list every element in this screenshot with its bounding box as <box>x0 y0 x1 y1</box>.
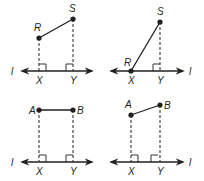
point-b <box>157 102 162 107</box>
label-r: R <box>34 22 41 33</box>
label-y: Y <box>157 166 165 177</box>
label-x: X <box>127 75 135 86</box>
label-l: l <box>11 157 14 168</box>
label-r: R <box>124 57 131 68</box>
right-angle-mark-y <box>151 155 158 162</box>
right-angle-mark-y <box>66 64 73 71</box>
point-b <box>70 107 75 112</box>
segment-rs <box>39 19 73 38</box>
label-y: Y <box>157 75 165 86</box>
projection-diagram: R S X Y l S R X Y l A B X Y l <box>0 0 204 181</box>
label-b: B <box>77 105 84 116</box>
point-s <box>157 19 162 24</box>
label-s: S <box>157 6 164 17</box>
panel-2: S R X Y l <box>111 6 192 86</box>
point-r <box>36 35 41 40</box>
label-x: X <box>35 166 43 177</box>
label-a: A <box>28 105 36 116</box>
right-angle-mark-x <box>39 155 46 162</box>
point-a <box>128 112 133 117</box>
right-angle-mark-x <box>131 155 138 162</box>
label-a: A <box>124 99 132 110</box>
label-l: l <box>189 157 192 168</box>
label-y: Y <box>70 75 78 86</box>
label-x: X <box>127 166 135 177</box>
label-l: l <box>11 66 14 77</box>
panel-4: A B X Y l <box>111 99 192 177</box>
label-y: Y <box>70 166 78 177</box>
panel-1: R S X Y l <box>11 3 92 86</box>
label-s: S <box>69 3 76 14</box>
point-a <box>36 107 41 112</box>
segment-ab <box>131 105 160 115</box>
point-r <box>128 68 133 73</box>
right-angle-mark-y <box>153 64 160 71</box>
label-b: B <box>164 100 171 111</box>
right-angle-mark-x <box>39 64 46 71</box>
panel-3: A B X Y l <box>11 105 92 177</box>
label-l: l <box>189 66 192 77</box>
point-s <box>70 16 75 21</box>
right-angle-mark-y <box>66 155 73 162</box>
label-x: X <box>35 75 43 86</box>
